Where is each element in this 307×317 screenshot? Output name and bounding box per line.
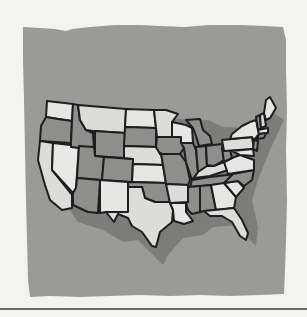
state-arizona (73, 178, 100, 213)
us-map-illustration (0, 0, 307, 317)
state-arkansas (166, 184, 188, 203)
state-oregon (40, 117, 72, 143)
state-south-dakota (124, 127, 156, 147)
illustration (0, 0, 307, 317)
state-montana (78, 105, 126, 133)
state-iowa (156, 137, 184, 154)
state-kansas (132, 164, 166, 183)
bottom-divider-line (0, 308, 307, 310)
state-new-mexico (100, 180, 128, 213)
state-mississippi (186, 186, 200, 214)
state-wyoming (95, 131, 125, 158)
state-north-dakota (125, 109, 156, 128)
state-colorado (102, 157, 133, 182)
state-connecticut (257, 133, 266, 139)
